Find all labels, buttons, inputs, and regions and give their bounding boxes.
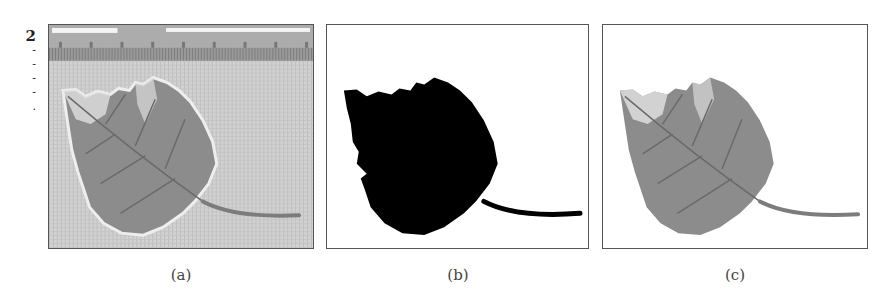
caption-a: (a) — [151, 266, 211, 284]
panel-c-segmented-leaf — [602, 24, 868, 249]
margin-text: 2 - - - - . — [0, 28, 36, 114]
margin-fragment: - — [0, 44, 36, 58]
segmented-leaf-image — [603, 25, 867, 248]
panel-a-original-image — [48, 24, 314, 249]
margin-fragment: . — [0, 100, 36, 114]
margin-fragment: - — [0, 58, 36, 72]
leaf-photo-image — [49, 25, 313, 248]
caption-b: (b) — [428, 266, 488, 284]
figure-number: 2 — [0, 28, 36, 44]
panel-b-binary-mask — [326, 24, 589, 249]
margin-fragment: - — [0, 86, 36, 100]
leaf-mask-image — [327, 25, 588, 248]
caption-c: (c) — [705, 266, 765, 284]
margin-fragment: - — [0, 72, 36, 86]
